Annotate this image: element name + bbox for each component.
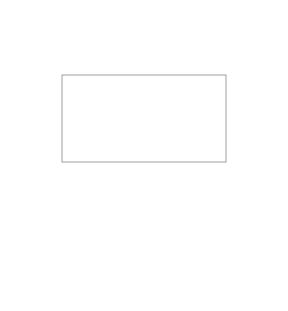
heart-sphere-figure — [0, 0, 288, 311]
zoom-box — [62, 75, 226, 162]
